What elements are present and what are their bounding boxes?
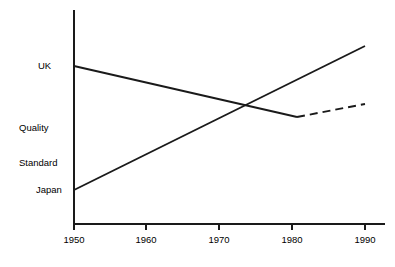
x-tick-label-1950: 1950 [56, 234, 92, 245]
series-line-uk-dashed [297, 104, 365, 117]
quality-standard-line-chart: UK Quality Standard Japan 1950 1960 1970… [0, 0, 395, 267]
x-tick-label-1960: 1960 [128, 234, 164, 245]
series-line-japan [74, 46, 365, 190]
x-tick-label-1970: 1970 [201, 234, 237, 245]
y-axis-label-line-2: Standard [19, 157, 58, 169]
series-label-uk: UK [38, 60, 51, 72]
y-axis-label-quality-standard: Quality Standard [19, 99, 58, 191]
x-tick-label-1990: 1990 [347, 234, 383, 245]
x-tick-label-1980: 1980 [274, 234, 310, 245]
y-axis-label-line-1: Quality [19, 122, 58, 134]
chart-canvas [0, 0, 395, 267]
series-line-uk-solid [74, 66, 297, 117]
series-label-japan: Japan [36, 184, 62, 196]
